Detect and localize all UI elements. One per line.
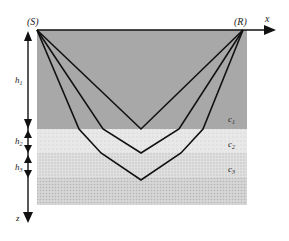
h1-top-arrow-icon [24,31,32,41]
x-axis-label: x [264,13,270,24]
h2-bottom-arrow-icon [24,145,32,153]
h1-label: h1 [15,75,23,86]
receiver-label: (R) [234,16,247,28]
h1-bottom-arrow-icon [24,119,32,129]
h3-label: h3 [15,162,23,173]
source-label: (S) [27,16,39,28]
h2-top-arrow-icon [24,130,32,138]
z-axis-label: z [15,213,20,223]
h3-top-arrow-icon [24,155,32,163]
z-axis-arrow-icon [23,212,33,223]
layer-c2 [37,129,247,153]
layer-c4 [37,178,247,205]
layered-medium-ray-diagram: (S) (R) x z h1 h2 h3 c1 c2 c3 [0,0,289,241]
x-axis-arrow-icon [264,25,276,35]
layer-c1 [37,30,247,129]
layer-c3 [37,153,247,178]
h2-label: h2 [15,136,23,147]
h3-bottom-arrow-icon [24,170,32,178]
